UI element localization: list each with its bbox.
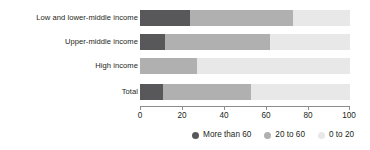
legend-item-20-to-60: 20 to 60	[264, 130, 305, 140]
x-axis-label-100: 100	[342, 111, 356, 121]
bar-segment-more-than-60	[140, 34, 165, 50]
legend-label-0-to-20: 0 to 20	[329, 130, 354, 140]
bar-segment-0-to-20	[270, 34, 350, 50]
legend-item-0-to-20: 0 to 20	[318, 130, 354, 140]
bar-segment-20-to-60	[163, 84, 251, 100]
bar-segment-20-to-60	[140, 58, 197, 74]
x-axis-tick-60	[266, 106, 267, 110]
bar-segment-more-than-60	[140, 84, 163, 100]
x-axis-line	[140, 106, 350, 107]
category-label-high-income: High income	[4, 61, 138, 70]
x-axis-tick-20	[182, 106, 183, 110]
bar-segment-20-to-60	[165, 34, 270, 50]
category-label-upper-middle-income: Upper-middle income	[4, 37, 138, 46]
x-axis-tick-100	[349, 106, 350, 110]
bar-low-and-lower-middle-income	[140, 10, 350, 26]
bar-segment-0-to-20	[251, 84, 350, 100]
bar-segment-0-to-20	[293, 10, 350, 26]
bar-segment-20-to-60	[190, 10, 293, 26]
category-label-total: Total	[4, 87, 138, 96]
legend-swatch-circle-icon	[318, 132, 325, 139]
bar-segment-more-than-60	[140, 10, 190, 26]
x-axis-tick-0	[140, 106, 141, 110]
x-axis-tick-80	[308, 106, 309, 110]
x-axis-label-40: 40	[219, 111, 228, 121]
legend-swatch-circle-icon	[192, 132, 199, 139]
bar-segment-0-to-20	[197, 58, 350, 74]
bar-high-income	[140, 58, 350, 74]
x-axis-label-60: 60	[261, 111, 270, 121]
legend-label-20-to-60: 20 to 60	[275, 130, 305, 140]
chart-legend: More than 60 20 to 60 0 to 20	[0, 130, 370, 140]
x-axis-label-0: 0	[138, 111, 143, 121]
x-axis-label-80: 80	[303, 111, 312, 121]
legend-swatch-circle-icon	[264, 132, 271, 139]
plot-area: 0 20 40 60 80 100	[140, 0, 350, 150]
bar-upper-middle-income	[140, 34, 350, 50]
x-axis-label-20: 20	[177, 111, 186, 121]
category-label-low-and-lower-middle-income: Low and lower-middle income	[4, 13, 138, 22]
x-axis-tick-40	[224, 106, 225, 110]
stacked-bar-chart: Low and lower-middle income Upper-middle…	[0, 0, 370, 150]
legend-item-more-than-60: More than 60	[192, 130, 251, 140]
bar-total	[140, 84, 350, 100]
legend-label-more-than-60: More than 60	[203, 130, 251, 140]
